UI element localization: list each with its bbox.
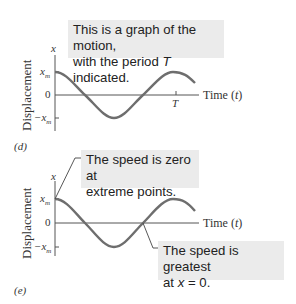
time-axis-label: Time (t) <box>203 88 242 103</box>
time-axis-label: Time (t) <box>203 216 242 231</box>
y-tick-neg-xm: −xm <box>34 111 51 126</box>
callout-period: This is a graph of the motion, with the … <box>68 20 224 58</box>
panel-label-d: (d) <box>14 140 27 152</box>
y-axis-label: Displacement <box>19 60 35 131</box>
leader-line-zero-speed <box>55 158 81 199</box>
figure: This is a graph of the motion, with the … <box>0 0 296 304</box>
y-tick-zero: 0 <box>45 88 51 100</box>
callout-greatest-speed: The speed is greatest at x = 0. <box>158 241 284 280</box>
callout-line-2: extreme points. <box>86 184 193 200</box>
callout-line-1: The speed is greatest <box>163 243 278 275</box>
callout-line-1: The speed is zero at <box>86 152 193 184</box>
panel-label-e: (e) <box>14 284 26 296</box>
y-tick-xm: xm <box>40 192 50 207</box>
callout-line-1: This is a graph of the motion, <box>73 22 218 54</box>
leader-line-greatest-speed <box>143 223 158 248</box>
callout-line-2: with the period T indicated. <box>73 54 218 86</box>
callout-zero-speed: The speed is zero at extreme points. <box>81 150 199 188</box>
callout-line-2: at x = 0. <box>163 275 278 291</box>
y-tick-xm: xm <box>40 65 50 80</box>
y-axis-letter: x <box>51 42 56 54</box>
y-tick-zero: 0 <box>45 216 51 228</box>
y-axis-letter: x <box>51 170 56 182</box>
y-tick-neg-xm: −xm <box>34 240 51 255</box>
y-axis-label: Displacement <box>19 188 35 259</box>
x-tick-period: T <box>172 97 178 109</box>
